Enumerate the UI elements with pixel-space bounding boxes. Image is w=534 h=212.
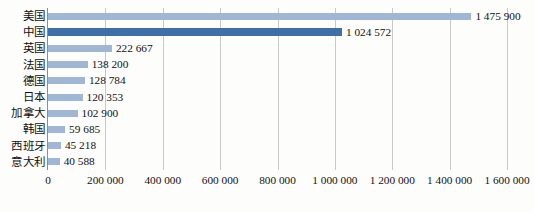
bar-row: 128 784 [48,73,507,89]
category-label: 德国 [23,73,45,89]
x-tick-label: 1 600 000 [484,172,529,188]
bar-value-label: 45 218 [65,137,96,153]
category-label: 西班牙 [11,138,45,154]
bar [48,77,85,84]
bar-chart-figure: 美国中国英国法国德国日本加拿大韩国西班牙意大利 1 475 9001 024 5… [0,0,534,212]
category-label: 法国 [23,57,45,73]
bar-value-label: 120 353 [87,89,124,105]
category-label: 意大利 [11,154,45,170]
bar [48,61,88,68]
bar-value-label: 102 900 [82,105,119,121]
bar [48,94,83,101]
x-tick-label: 600 000 [202,172,239,188]
category-axis: 美国中国英国法国德国日本加拿大韩国西班牙意大利 [0,8,47,170]
category-label: 中国 [23,24,45,40]
gridline [507,8,508,170]
category-label: 韩国 [23,121,45,137]
x-tick-label: 1 400 000 [427,172,472,188]
x-tick-label: 800 000 [259,172,296,188]
bar-value-label: 1 475 900 [475,8,520,24]
plot-area: 1 475 9001 024 572222 667138 200128 7841… [48,8,507,170]
x-axis-tick-labels: 0200 000400 000600 000800 0001 000 0001 … [48,172,507,188]
bar-value-label: 59 685 [69,121,100,137]
bar-row: 1 024 572 [48,24,507,40]
bar [48,110,78,117]
bar-row: 45 218 [48,138,507,154]
category-label: 加拿大 [11,105,45,121]
bar-row: 40 588 [48,154,507,170]
x-tick-label: 1 200 000 [370,172,415,188]
bar [48,126,65,133]
x-tick-label: 0 [45,172,51,188]
category-label: 美国 [23,8,45,24]
bar [48,142,61,149]
category-label: 日本 [23,89,45,105]
bar-row: 1 475 900 [48,8,507,24]
bar [48,13,471,20]
bar [48,45,112,52]
figure-caption [0,199,534,212]
bar-value-label: 1 024 572 [346,24,391,40]
x-tick-label: 1 000 000 [312,172,357,188]
bar-value-label: 138 200 [92,56,129,72]
x-tick-label: 200 000 [87,172,124,188]
bar-row: 138 200 [48,57,507,73]
bar-value-label: 128 784 [89,72,126,88]
bar-value-label: 40 588 [64,153,95,169]
category-label: 英国 [23,40,45,56]
bar-row: 59 685 [48,121,507,137]
bar [48,158,60,165]
bar-row: 102 900 [48,105,507,121]
bar [48,28,342,36]
bar-value-label: 222 667 [116,40,153,56]
bar-row: 222 667 [48,40,507,56]
bar-row: 120 353 [48,89,507,105]
x-tick-label: 400 000 [144,172,181,188]
